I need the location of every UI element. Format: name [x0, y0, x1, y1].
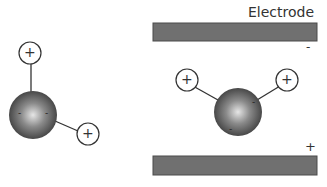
- hydrogen-charge: +: [82, 125, 94, 141]
- oxygen-atom: [214, 88, 262, 136]
- diagram-svg: [0, 0, 327, 187]
- oxygen-charge: -: [229, 124, 232, 134]
- hydrogen-charge: +: [24, 44, 36, 60]
- electrode-top: [153, 23, 317, 41]
- hydrogen-charge: +: [281, 71, 293, 87]
- molecule-right: [176, 69, 298, 136]
- electrode-bottom: [153, 156, 317, 175]
- bond-line: [193, 86, 218, 100]
- hydrogen-charge: +: [181, 71, 193, 87]
- oxygen-charge: -: [18, 108, 21, 118]
- electrode-label: Electrode: [248, 4, 314, 20]
- oxygen-charge: -: [252, 97, 255, 107]
- oxygen-atom: [9, 91, 57, 139]
- diagram-canvas: Electrode - + + + - - + + - -: [0, 0, 327, 187]
- negative-sign: -: [306, 40, 310, 54]
- oxygen-charge: -: [45, 108, 48, 118]
- bond-line: [55, 121, 78, 131]
- bond-line: [257, 86, 280, 100]
- positive-sign: +: [305, 139, 316, 154]
